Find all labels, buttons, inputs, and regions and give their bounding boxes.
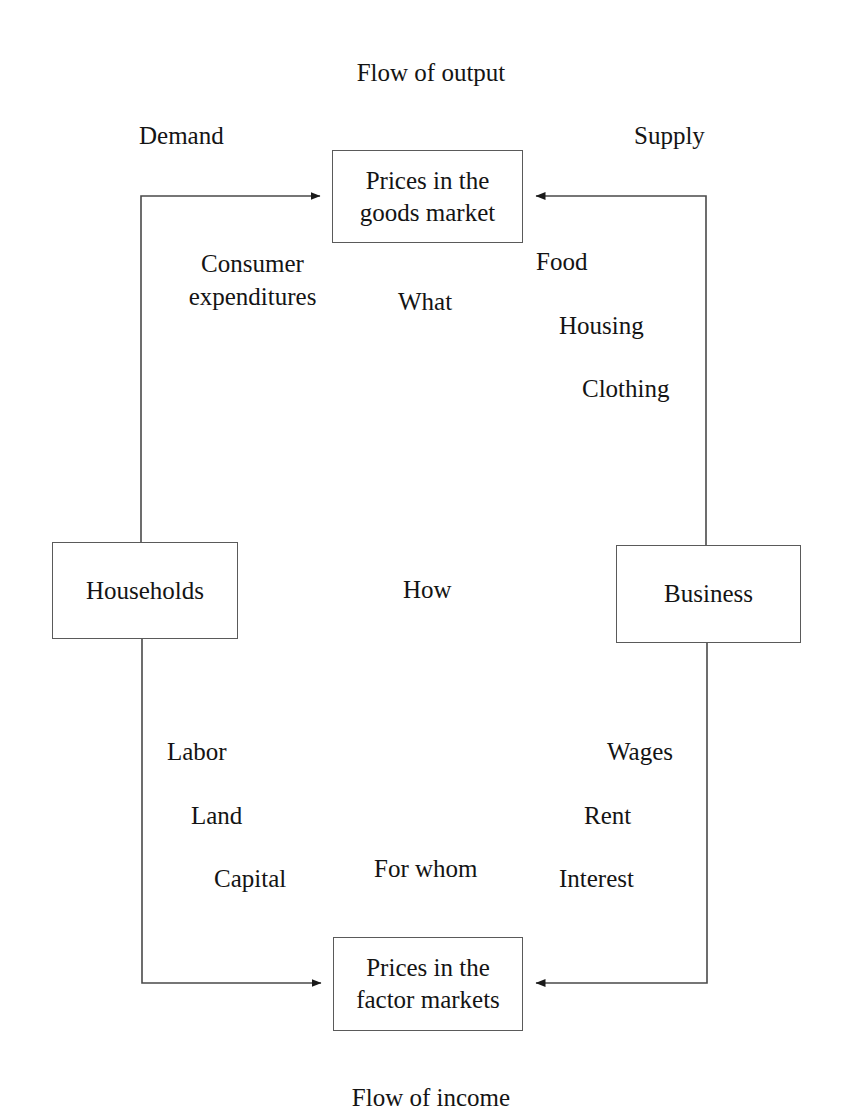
label-factor-land: Land [191, 800, 242, 833]
label-payment-interest: Interest [559, 863, 634, 896]
label-payment-wages: Wages [607, 736, 673, 769]
label-factor-labor: Labor [167, 736, 227, 769]
label-question-for-whom: For whom [374, 853, 477, 886]
box-business: Business [616, 545, 801, 643]
label-demand: Demand [139, 120, 224, 153]
diagram-title-bottom: Flow of income [0, 1082, 862, 1113]
label-consumer-expenditures: Consumerexpenditures [185, 248, 320, 313]
label-question-what: What [398, 286, 452, 319]
label-payment-rent: Rent [584, 800, 631, 833]
label-good-food: Food [536, 246, 587, 279]
label-good-housing: Housing [559, 310, 644, 343]
label-question-how: How [403, 574, 452, 607]
box-factor-markets: Prices in thefactor markets [333, 937, 523, 1031]
box-households: Households [52, 542, 238, 639]
label-supply: Supply [634, 120, 705, 153]
box-goods-market: Prices in thegoods market [332, 150, 523, 243]
label-good-clothing: Clothing [582, 373, 670, 406]
label-factor-capital: Capital [214, 863, 286, 896]
diagram-title-top: Flow of output [0, 57, 862, 90]
circular-flow-diagram: Flow of output Flow of income Demand Sup… [0, 0, 862, 1113]
